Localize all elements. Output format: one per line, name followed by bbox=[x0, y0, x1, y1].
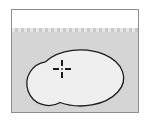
selection-outline-path[interactable] bbox=[27, 50, 124, 106]
figure-caption bbox=[0, 0, 1, 1]
top-edge-label: serrated top edge bbox=[0, 0, 1, 1]
canvas-frame[interactable] bbox=[11, 9, 139, 113]
selection-label: selection outline bbox=[0, 0, 1, 1]
crosshair-label: crosshair marker bbox=[0, 0, 1, 1]
figure-title: Selection region illustration bbox=[0, 0, 1, 1]
white-band-label: white margin band bbox=[0, 0, 1, 1]
canvas-white-band bbox=[12, 10, 138, 28]
image-area-label: image area bbox=[0, 0, 1, 1]
selection-shape-layer bbox=[12, 28, 138, 113]
canvas-image-area[interactable] bbox=[12, 28, 138, 112]
figure-root: Selection region illustration selection … bbox=[0, 0, 150, 125]
